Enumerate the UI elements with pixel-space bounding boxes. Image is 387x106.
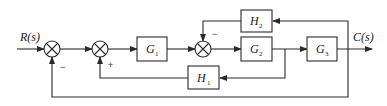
- block-h2-subscript: 2: [259, 22, 263, 30]
- block-h1-letter: H: [196, 71, 207, 85]
- block-g3-letter: G: [316, 42, 325, 56]
- wire-h2-s3: [203, 21, 241, 41]
- block-h1: H 1: [188, 66, 219, 89]
- s3-feedback-sign: −: [212, 29, 217, 39]
- block-h2: H 2: [241, 10, 272, 32]
- summing-junction-3: [195, 41, 211, 57]
- block-g2-subscript: 2: [259, 50, 263, 58]
- s1-feedback-sign: −: [60, 62, 65, 72]
- s2-feedback-sign: +: [108, 60, 113, 70]
- input-label: R(s): [19, 30, 40, 44]
- block-diagram: R(s) G 1 G 2 G 3: [0, 0, 387, 106]
- block-g2: G 2: [241, 37, 272, 61]
- block-g3-subscript: 3: [325, 50, 329, 58]
- summing-junction-1: [44, 41, 60, 57]
- block-h1-subscript: 1: [207, 79, 211, 87]
- block-g1-subscript: 1: [155, 50, 159, 58]
- block-g3: G 3: [307, 37, 337, 61]
- output-label: C(s): [353, 30, 374, 44]
- summing-junction-2: [92, 41, 108, 57]
- block-g1: G 1: [137, 37, 167, 61]
- block-g2-letter: G: [250, 42, 259, 56]
- block-g1-letter: G: [146, 42, 155, 56]
